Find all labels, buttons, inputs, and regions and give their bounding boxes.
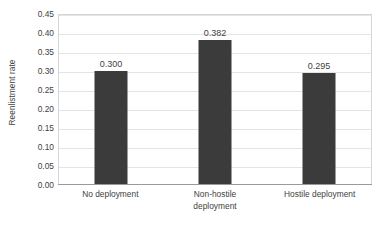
bar-slot: 0.295 [267, 15, 371, 185]
x-axis-category-label-line: deployment [165, 201, 266, 213]
bar[interactable] [303, 73, 336, 185]
y-axis-tick-label: 0.25 [20, 85, 54, 95]
y-axis-tick-label: 0.20 [20, 104, 54, 114]
y-axis-tick-label: 0.45 [20, 9, 54, 19]
y-axis-tick-label: 0.05 [20, 161, 54, 171]
x-axis-line [58, 184, 372, 185]
y-axis-tick-label: 0.00 [20, 180, 54, 190]
bar[interactable] [199, 40, 232, 185]
x-axis-category-label-line: Non-hostile [165, 189, 266, 201]
y-axis-tick-label: 0.40 [20, 28, 54, 38]
x-axis-category-label: No deployment [58, 189, 163, 229]
x-axis-category-label: Hostile deployment [267, 189, 372, 229]
x-axis-category-label: Non-hostiledeployment [163, 189, 268, 229]
bars-group: 0.3000.3820.295 [59, 15, 371, 185]
bar-value-label: 0.295 [308, 61, 331, 71]
x-axis-category-labels: No deploymentNon-hostiledeploymentHostil… [58, 189, 372, 229]
plot-area: 0.3000.3820.295 [58, 14, 372, 185]
bar-slot: 0.300 [59, 15, 163, 185]
y-axis-tick-label: 0.35 [20, 47, 54, 57]
y-axis-tick-labels: 0.000.050.100.150.200.250.300.350.400.45 [20, 14, 54, 185]
y-axis-title-text: Reenlistment rate [9, 60, 18, 126]
bar-value-label: 0.300 [100, 59, 123, 69]
bar-slot: 0.382 [163, 15, 267, 185]
x-axis-category-label-line: Hostile deployment [269, 189, 370, 201]
bar-chart-figure: Reenlistment rate 0.000.050.100.150.200.… [0, 0, 382, 230]
x-axis-category-label-line: No deployment [60, 189, 161, 201]
bar[interactable] [95, 71, 128, 185]
bar-value-label: 0.382 [204, 28, 227, 38]
y-axis-tick-label: 0.10 [20, 142, 54, 152]
y-axis-tick-label: 0.15 [20, 123, 54, 133]
y-axis-tick-label: 0.30 [20, 66, 54, 76]
y-axis-title: Reenlistment rate [6, 0, 20, 185]
